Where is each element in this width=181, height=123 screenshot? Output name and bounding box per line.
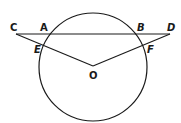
segment-co <box>16 34 93 66</box>
label-a: A <box>40 22 48 33</box>
circle-o <box>39 13 147 121</box>
geometry-diagram: C A B D E F O <box>0 0 181 123</box>
label-d: D <box>167 22 175 33</box>
label-f: F <box>147 44 154 55</box>
segment-do <box>93 34 170 66</box>
label-e: E <box>34 44 41 55</box>
label-o: O <box>89 70 98 81</box>
label-b: B <box>137 22 145 33</box>
label-c: C <box>10 22 17 33</box>
